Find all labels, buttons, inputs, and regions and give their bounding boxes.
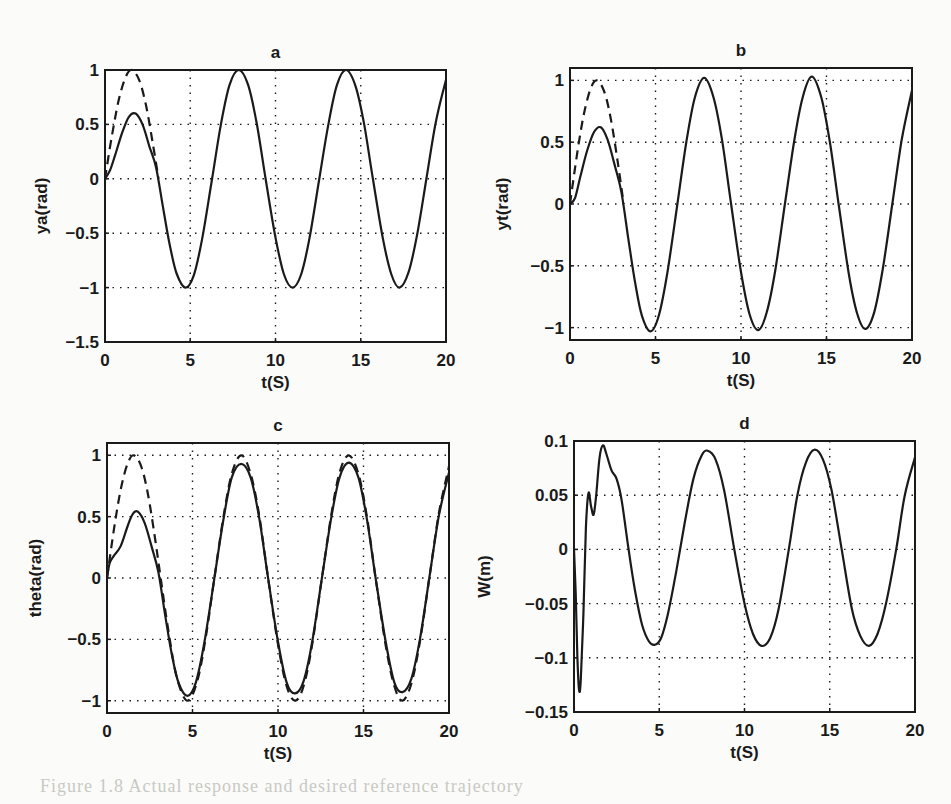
- x-tick-label: 5: [186, 351, 195, 370]
- y-tick-label: 0.5: [540, 133, 564, 152]
- figure-caption: Figure 1.8 Actual response and desired r…: [40, 776, 920, 800]
- y-tick-label: −0.05: [525, 595, 568, 614]
- x-tick-label: 0: [102, 722, 111, 741]
- x-tick-label: 15: [354, 722, 373, 741]
- y-tick-label: 0.05: [535, 486, 568, 505]
- y-tick-label: 0: [559, 540, 568, 559]
- x-axis-label: t(S): [730, 743, 758, 762]
- x-tick-label: 15: [351, 351, 370, 370]
- y-axis-label: theta(rad): [26, 539, 45, 617]
- y-axis-label: yt(rad): [493, 178, 512, 231]
- y-tick-label: 1: [555, 71, 564, 90]
- y-tick-label: −1: [545, 319, 564, 338]
- figure-canvas: 05101520−1.5−1−0.500.51at(S)ya(rad) 0510…: [0, 0, 951, 804]
- x-axis-label: t(S): [264, 744, 292, 763]
- x-tick-label: 10: [735, 721, 754, 740]
- x-tick-label: 10: [269, 722, 288, 741]
- y-tick-label: −1: [80, 279, 99, 298]
- y-tick-label: 0.5: [75, 115, 99, 134]
- x-axis-label: t(S): [261, 373, 289, 392]
- y-axis-label: ya(rad): [32, 178, 51, 235]
- x-tick-label: 20: [437, 351, 456, 370]
- y-tick-label: −1.5: [65, 333, 99, 352]
- x-tick-label: 5: [188, 722, 197, 741]
- x-tick-label: 20: [903, 349, 922, 368]
- y-tick-label: 0.5: [77, 508, 101, 527]
- x-tick-label: 10: [732, 349, 751, 368]
- x-tick-label: 0: [565, 349, 574, 368]
- x-tick-label: 10: [266, 351, 285, 370]
- x-tick-label: 0: [100, 351, 109, 370]
- y-tick-label: −0.5: [530, 257, 564, 276]
- y-tick-label: 0: [92, 569, 101, 588]
- panel-b: 05101520−1−0.500.51bt(S)yt(rad): [493, 41, 921, 390]
- x-tick-label: 15: [817, 349, 836, 368]
- x-tick-label: 20: [440, 722, 459, 741]
- x-tick-label: 0: [569, 721, 578, 740]
- x-tick-label: 15: [820, 721, 839, 740]
- x-axis-label: t(S): [727, 371, 755, 390]
- x-tick-label: 20: [906, 721, 925, 740]
- y-tick-label: 1: [90, 61, 99, 80]
- y-tick-label: 0: [90, 170, 99, 189]
- panel-c: 05101520−1−0.500.51ct(S)theta(rad): [26, 416, 458, 763]
- y-tick-label: 0.1: [544, 432, 568, 451]
- panel-title: d: [739, 414, 749, 433]
- y-tick-label: −1: [82, 692, 101, 711]
- panel-title: b: [736, 41, 746, 60]
- panel-a: 05101520−1.5−1−0.500.51at(S)ya(rad): [32, 43, 455, 392]
- y-tick-label: 1: [92, 446, 101, 465]
- panel-title: a: [271, 43, 281, 62]
- y-axis-label: W(m): [475, 555, 494, 597]
- x-tick-label: 5: [651, 349, 660, 368]
- y-tick-label: 0: [555, 195, 564, 214]
- y-tick-label: −0.15: [525, 703, 568, 722]
- y-tick-label: −0.5: [67, 630, 101, 649]
- y-tick-label: −0.5: [65, 224, 99, 243]
- panel-title: c: [273, 416, 282, 435]
- x-tick-label: 5: [655, 721, 664, 740]
- y-tick-label: −0.1: [534, 649, 568, 668]
- panel-d: 05101520−0.15−0.1−0.0500.050.1dt(S)W(m): [475, 414, 924, 762]
